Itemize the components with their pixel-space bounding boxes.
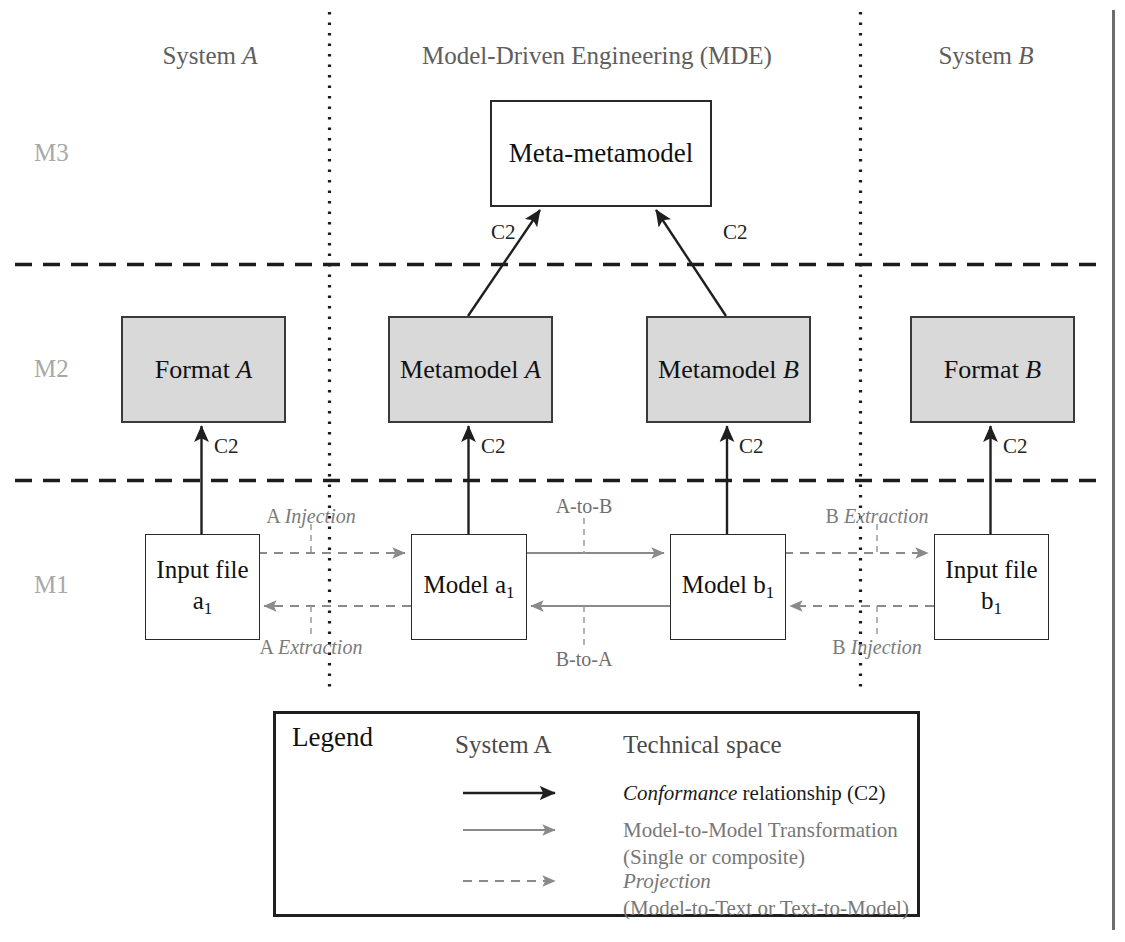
label-c2-meta-metamodel-right: C2 [723, 220, 748, 245]
column-header-system-a-italic: A [242, 42, 257, 69]
box-model-a1: Model a1 [411, 534, 527, 640]
column-header-system-a-text: System [162, 42, 242, 69]
box-format-a-label: Format A [155, 354, 253, 386]
column-header-mde: Model-Driven Engineering (MDE) [422, 42, 772, 70]
legend-column-system: System A [455, 731, 552, 759]
box-metamodel-a: Metamodel A [388, 316, 553, 423]
label-c2-format-a: C2 [214, 434, 239, 459]
legend-entry-projection-detail: (Model-to-Text or Text-to-Model) [623, 896, 909, 921]
label-c2-format-b: C2 [1003, 434, 1028, 459]
box-format-b: Format B [910, 316, 1075, 423]
box-format-b-label: Format B [944, 354, 1042, 386]
box-input-file-a1: Input file a1 [145, 534, 260, 640]
box-input-file-a1-index: a1 [193, 586, 213, 619]
box-input-file-a1-label: Input file [156, 555, 248, 586]
box-model-a1-label: Model a1 [423, 570, 514, 603]
box-input-file-b1-index: b1 [981, 586, 1002, 619]
column-header-system-b-text: System [938, 42, 1018, 69]
box-metamodel-a-label: Metamodel A [400, 354, 541, 386]
box-metamodel-b: Metamodel B [646, 316, 811, 423]
box-format-a: Format A [121, 316, 286, 423]
label-b-injection: B Injection [832, 636, 921, 659]
label-a-to-b: A-to-B [556, 495, 613, 518]
box-model-b1-label: Model b1 [682, 570, 775, 603]
level-label-m2: M2 [34, 355, 69, 383]
column-header-system-b-italic: B [1018, 42, 1033, 69]
legend-title: Legend [292, 722, 373, 753]
column-header-mde-text: Model-Driven Engineering (MDE) [422, 42, 772, 69]
level-label-m1: M1 [34, 571, 69, 599]
level-label-m3: M3 [34, 139, 69, 167]
label-a-extraction: A Extraction [260, 636, 363, 659]
label-c2-meta-metamodel-left: C2 [491, 220, 516, 245]
label-b-to-a: B-to-A [556, 648, 613, 671]
box-meta-metamodel-label: Meta-metamodel [509, 137, 693, 170]
box-input-file-b1-label: Input file [945, 555, 1037, 586]
legend-entry-conformance: Conformance relationship (C2) [623, 781, 885, 806]
mde-technical-space-diagram: System A Model-Driven Engineering (MDE) … [0, 0, 1125, 942]
box-input-file-b1: Input file b1 [934, 534, 1049, 640]
column-header-system-b: System B [938, 42, 1033, 70]
label-b-extraction: B Extraction [826, 505, 929, 528]
column-header-system-a: System A [162, 42, 257, 70]
label-a-injection: A Injection [266, 505, 355, 528]
legend-entry-transformation: Model-to-Model Transformation [623, 818, 898, 843]
legend-column-technical-space: Technical space [623, 731, 782, 759]
box-model-b1: Model b1 [670, 534, 786, 640]
label-c2-metamodel-b: C2 [739, 434, 764, 459]
label-c2-metamodel-a: C2 [481, 434, 506, 459]
legend-entry-projection: Projection [623, 869, 711, 894]
box-metamodel-b-label: Metamodel B [658, 354, 799, 386]
legend-entry-transformation-detail: (Single or composite) [623, 845, 805, 870]
box-meta-metamodel: Meta-metamodel [490, 100, 712, 207]
